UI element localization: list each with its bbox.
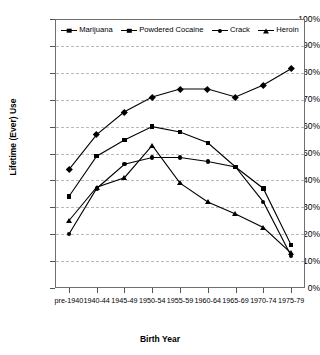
triangle-marker-icon [149, 143, 155, 148]
legend-swatch [121, 30, 137, 31]
gridline [56, 73, 304, 74]
x-axis-tick-mark [180, 288, 181, 293]
x-axis-tick-label: 1975-79 [268, 296, 314, 305]
square-marker-icon [127, 28, 131, 32]
triangle-marker-icon [94, 185, 100, 190]
triangle-marker-icon [288, 250, 294, 255]
legend-item-heroin[interactable]: Heroin [258, 26, 298, 34]
x-axis-tick-mark [124, 288, 125, 293]
chart-container: Lifetime (Ever) Use 0%10%20%30%40%50%60%… [0, 0, 320, 355]
x-axis-tick-mark [208, 288, 209, 293]
legend-label: Marijuana [79, 26, 112, 34]
gridline [56, 207, 304, 208]
square-marker-icon [289, 243, 293, 247]
x-axis-tick-mark [152, 288, 153, 293]
triangle-marker-icon [121, 175, 127, 180]
gridline [56, 154, 304, 155]
legend-item-crack[interactable]: Crack [212, 26, 250, 34]
legend-swatch [258, 30, 274, 31]
plot-area [55, 19, 305, 288]
gridline [56, 234, 304, 235]
x-axis-tick-mark [236, 288, 237, 293]
gridline [56, 261, 304, 262]
triangle-marker-icon [66, 218, 72, 223]
legend-label: Heroin [276, 26, 298, 34]
gridline [56, 100, 304, 101]
triangle-marker-icon [263, 28, 269, 33]
triangle-marker-icon [177, 180, 183, 185]
circle-marker-icon [150, 155, 154, 159]
y-axis-title: Lifetime (Ever) Use [8, 77, 18, 197]
x-axis-tick-mark [291, 288, 292, 293]
diamond-marker-icon [67, 28, 72, 33]
chart-legend: MarijuanaPowdered CocaineCrackHeroin [57, 21, 303, 39]
circle-marker-icon [178, 155, 182, 159]
circle-marker-icon [218, 28, 222, 32]
circle-marker-icon [233, 165, 237, 169]
legend-item-marijuana[interactable]: Marijuana [61, 26, 112, 34]
legend-swatch [61, 30, 77, 31]
square-marker-icon [206, 141, 210, 145]
legend-label: Powdered Cocaine [139, 26, 203, 34]
triangle-marker-icon [205, 199, 211, 204]
gridline [56, 127, 304, 128]
triangle-marker-icon [232, 211, 238, 216]
square-marker-icon [178, 130, 182, 134]
legend-swatch [212, 30, 228, 31]
legend-item-powdered-cocaine[interactable]: Powdered Cocaine [121, 26, 203, 34]
legend-label: Crack [230, 26, 250, 34]
gridline [56, 46, 304, 47]
circle-marker-icon [122, 162, 126, 166]
square-marker-icon [261, 186, 265, 190]
x-axis-tick-mark [69, 288, 70, 293]
triangle-marker-icon [260, 225, 266, 230]
x-axis-tick-mark [263, 288, 264, 293]
x-axis-title: Birth Year [0, 334, 320, 344]
y-axis-tick-mark [50, 288, 55, 289]
square-marker-icon [67, 194, 71, 198]
x-axis-tick-mark [97, 288, 98, 293]
square-marker-icon [94, 154, 98, 158]
square-marker-icon [122, 138, 126, 142]
square-marker-icon [150, 124, 154, 128]
circle-marker-icon [206, 159, 210, 163]
